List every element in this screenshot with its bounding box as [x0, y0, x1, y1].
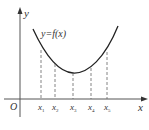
y-axis-arrow — [18, 7, 23, 14]
y-axis-label: y — [23, 7, 29, 19]
x-axis-label: x — [137, 101, 143, 113]
tick-label-x4: x4 — [87, 102, 95, 113]
tick-label-x1: x1 — [37, 102, 45, 113]
curve-label: y=f(x) — [40, 28, 67, 40]
tick-label-x2: x2 — [51, 102, 59, 113]
function-graph: y x O y=f(x) x1x2x3x4x5 — [0, 0, 149, 130]
tick-label-x3: x3 — [69, 102, 77, 113]
origin-label: O — [10, 101, 17, 112]
tick-label-x5: x5 — [103, 102, 111, 113]
